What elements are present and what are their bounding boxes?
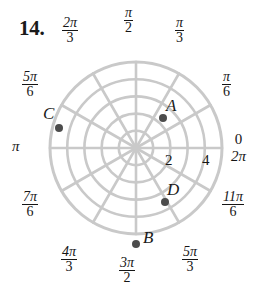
data-point-a-label: A <box>166 96 176 116</box>
angle-label-4pi-over-3: 4π 3 <box>61 245 77 275</box>
data-point-c-dot <box>55 124 63 132</box>
angle-label-two-pi: 2π <box>231 148 246 165</box>
radial-tick-label-2: 2 <box>165 152 173 169</box>
angle-label-3pi-over-2: 3π 2 <box>119 256 135 286</box>
angle-label-5pi-over-6: 5π 6 <box>22 70 38 100</box>
angle-label-11pi-over-6: 11π 6 <box>222 190 244 220</box>
angle-label-7pi-over-6: 7π 6 <box>22 190 38 220</box>
radial-tick-label-4: 4 <box>202 152 210 169</box>
angle-label-pi-over-2: π 2 <box>124 6 133 36</box>
angle-label-zero-two-pi: 0 2π <box>231 131 246 165</box>
angle-label-2pi-over-3: 2π 3 <box>62 16 78 46</box>
angle-label-pi: π <box>12 139 20 154</box>
data-point-b-dot <box>132 240 140 248</box>
angle-label-5pi-over-3: 5π 3 <box>182 245 198 275</box>
angle-label-pi-over-6: π 6 <box>222 70 231 100</box>
angle-label-zero: 0 <box>231 131 246 148</box>
polar-graph-figure: 14. π 2 π 3 π <box>0 0 274 288</box>
data-point-c-label: C <box>43 104 54 124</box>
data-point-b-label: B <box>143 228 153 248</box>
data-point-d-label: D <box>167 180 179 200</box>
angle-label-pi-over-3: π 3 <box>175 16 184 46</box>
